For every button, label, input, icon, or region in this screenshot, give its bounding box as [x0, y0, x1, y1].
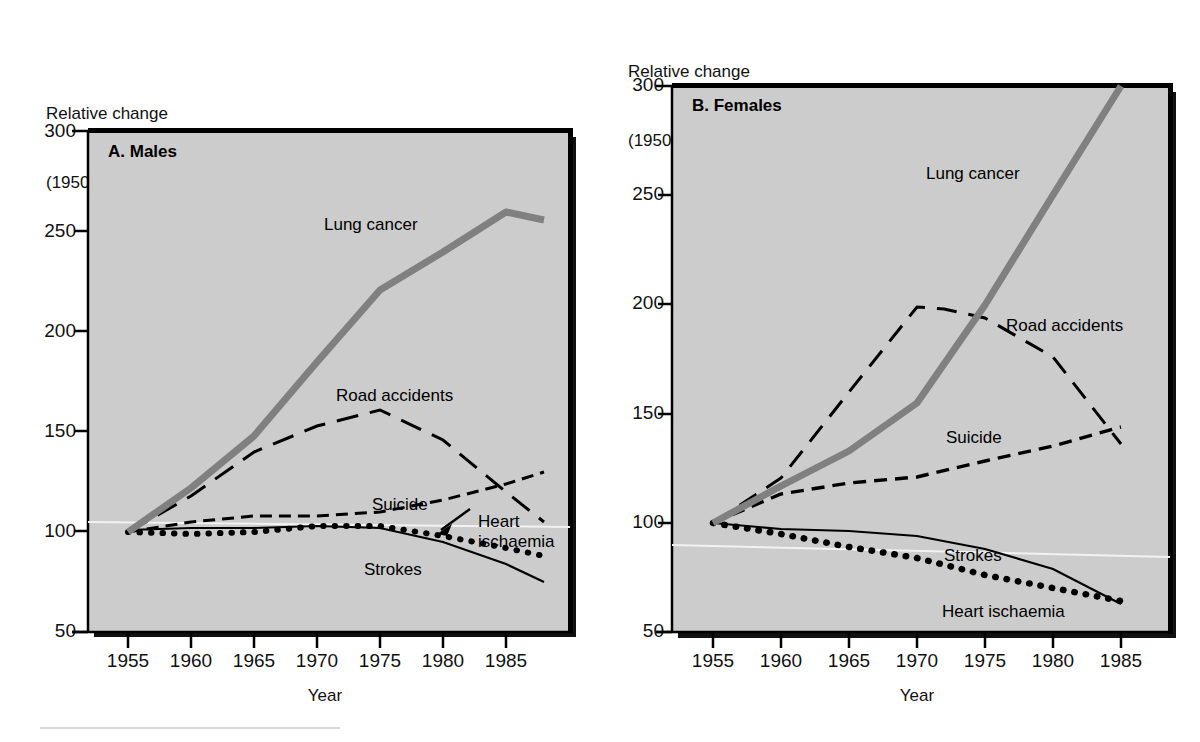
panel-b-label-heart-ischaemia: Heart ischaemia: [942, 602, 1065, 622]
panel-b-label-strokes: Strokes: [944, 546, 1002, 566]
panel-a-x-axis-name: Year: [265, 686, 385, 706]
panel-b-label: B. Females: [692, 96, 782, 116]
panel-b-ytick-marks: [656, 86, 672, 632]
panel-b-frame-top: [672, 83, 1172, 88]
panel-b-label-road-accidents: Road accidents: [1006, 316, 1123, 336]
panel-b-label-suicide: Suicide: [946, 428, 1002, 448]
panel-b-frame-right: [1168, 83, 1173, 634]
figure-root: Relative change (1950−54 = 100) 300 250 …: [0, 0, 1200, 742]
panel-b-x-axis-name: Year: [857, 686, 977, 706]
panel-b-label-lung-cancer: Lung cancer: [926, 164, 1020, 184]
footer-divider: [40, 727, 340, 729]
